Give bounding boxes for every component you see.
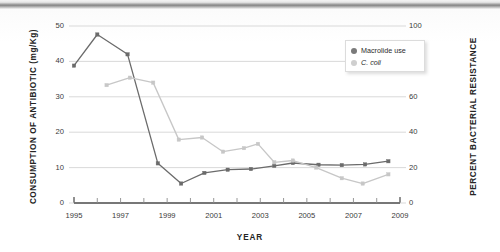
legend-label-c-coli: C. coli	[361, 58, 381, 67]
legend-swatch-icon-macrolide-use	[351, 48, 357, 54]
chart-legend: Macrolide use C. coli	[345, 40, 425, 72]
series-marker-2	[128, 76, 131, 79]
series-marker-2	[105, 83, 108, 86]
series-marker-2	[242, 146, 245, 149]
legend-item-macrolide-use: Macrolide use	[351, 45, 419, 56]
data-series-layer	[72, 33, 390, 185]
plot-area	[0, 0, 500, 252]
series-line-1	[74, 35, 388, 184]
series-marker-1	[179, 182, 182, 185]
series-marker-1	[249, 167, 252, 170]
legend-item-c-coli: C. coli	[351, 57, 419, 68]
series-marker-2	[273, 161, 276, 164]
series-marker-1	[203, 171, 206, 174]
series-marker-1	[156, 162, 159, 165]
series-marker-1	[96, 33, 99, 36]
series-marker-2	[387, 173, 390, 176]
series-marker-1	[340, 163, 343, 166]
chart-figure: CONSUMPTION OF ANTIBIOTIC (mg/Kg) PERCEN…	[0, 0, 500, 252]
series-marker-2	[151, 81, 154, 84]
series-marker-1	[226, 168, 229, 171]
series-marker-2	[200, 136, 203, 139]
legend-label-macrolide-use: Macrolide use	[361, 46, 406, 55]
series-marker-1	[273, 164, 276, 167]
series-marker-2	[256, 142, 259, 145]
series-marker-1	[126, 53, 129, 56]
series-marker-1	[387, 160, 390, 163]
legend-swatch-icon-c-coli	[351, 60, 357, 66]
series-marker-1	[72, 64, 75, 67]
series-marker-2	[291, 159, 294, 162]
series-marker-2	[314, 166, 317, 169]
series-marker-2	[340, 177, 343, 180]
series-marker-2	[361, 182, 364, 185]
series-marker-2	[177, 138, 180, 141]
series-marker-1	[363, 163, 366, 166]
series-marker-2	[221, 150, 224, 153]
